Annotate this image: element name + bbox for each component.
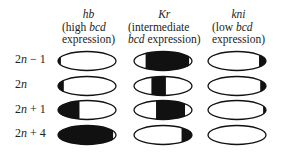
embryo-ellipse xyxy=(208,126,266,145)
ellipse-grid xyxy=(0,0,285,157)
embryo-ellipse xyxy=(208,77,266,96)
embryo-ellipse xyxy=(58,52,116,71)
embryo-ellipse xyxy=(208,52,266,71)
embryo-ellipse xyxy=(58,77,116,96)
embryo-ellipse xyxy=(208,101,266,120)
